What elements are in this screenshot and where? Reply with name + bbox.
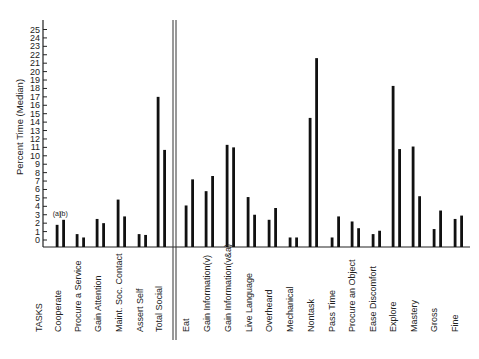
bar <box>268 220 271 247</box>
bar <box>289 237 292 247</box>
bar <box>372 234 375 247</box>
category-label: Pass Time <box>327 290 337 332</box>
bar <box>117 200 120 247</box>
category-label: Gain Information(v) <box>202 255 212 332</box>
bar <box>205 191 208 247</box>
bar <box>309 118 312 247</box>
bar <box>412 147 415 247</box>
bar <box>226 145 229 247</box>
category-label: Gross <box>429 307 439 332</box>
y-axis-title: Percent Time (Median) <box>14 79 25 175</box>
bar <box>56 225 59 247</box>
bar <box>439 211 442 247</box>
bar <box>232 147 235 247</box>
bar <box>315 58 318 247</box>
bar <box>253 215 256 247</box>
category-label: Gain Information(v&a) <box>223 244 233 332</box>
category-label: Gain Attention <box>93 275 103 332</box>
series-annotation: (b) <box>59 210 68 218</box>
bar <box>191 179 194 247</box>
y-tick-label: 25 <box>30 25 40 35</box>
bar <box>398 149 401 247</box>
bar-chart: 0123456789101112131415161718192021222324… <box>0 0 479 359</box>
bar <box>418 196 421 247</box>
category-label: Mechanical <box>285 286 295 332</box>
bar <box>163 150 166 247</box>
y-axis: 0123456789101112131415161718192021222324… <box>30 20 47 247</box>
category-label: Fine <box>450 314 460 332</box>
bar <box>62 220 65 247</box>
category-label: Live Language <box>244 273 254 332</box>
bar <box>433 229 436 247</box>
category-label: Explore <box>388 301 398 332</box>
bar <box>295 237 298 247</box>
bar <box>138 234 141 247</box>
category-label: Nontask <box>306 298 316 332</box>
bar <box>123 216 126 247</box>
bars <box>56 58 463 247</box>
bar <box>337 216 340 247</box>
bar <box>378 231 381 247</box>
category-labels: CooperateProcure a ServiceGain Attention… <box>53 244 460 332</box>
series-annotations: (a)(b) <box>53 210 68 218</box>
bar <box>331 237 334 247</box>
bar <box>157 97 160 247</box>
bar <box>185 205 188 247</box>
x-axis-title: TASKS <box>34 303 44 332</box>
category-label: Mastery <box>409 299 419 332</box>
category-label: Procure a Service <box>73 260 83 332</box>
bar <box>82 237 85 247</box>
category-label: Maint. Soc. Contact <box>114 253 124 332</box>
bar <box>454 219 457 247</box>
bar <box>96 219 99 247</box>
category-label: Total Social <box>154 286 164 332</box>
category-label: Overheard <box>264 289 274 332</box>
bar <box>76 234 79 247</box>
bar <box>357 228 360 247</box>
bar <box>144 235 147 247</box>
bar <box>102 223 105 247</box>
bar <box>351 221 354 247</box>
bar <box>211 176 214 247</box>
category-label: Procure an Object <box>347 259 357 332</box>
bar <box>247 197 250 247</box>
category-label: Cooperate <box>53 290 63 332</box>
bar <box>274 208 277 247</box>
category-label: Eat <box>181 318 191 332</box>
bar <box>392 86 395 247</box>
bar <box>460 216 463 247</box>
category-label: Ease Discomfort <box>368 265 378 332</box>
category-label: Assert Self <box>135 288 145 332</box>
